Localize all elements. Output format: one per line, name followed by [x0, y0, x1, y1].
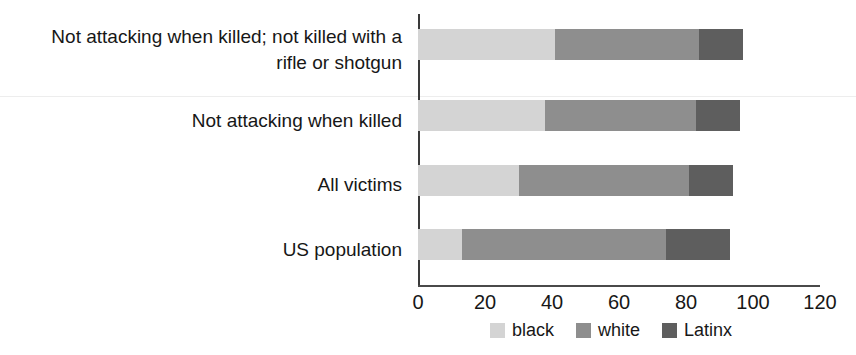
- bar-segment-latinx: [696, 100, 740, 131]
- x-axis-tick-label: 0: [412, 289, 423, 315]
- bar-row: [418, 229, 730, 260]
- x-axis-tick-labels: 020406080100120: [418, 289, 820, 317]
- x-axis-tick-label: 40: [541, 289, 563, 315]
- bar-row: [418, 165, 733, 196]
- plot-area: [418, 14, 820, 285]
- bar-segment-black: [418, 100, 545, 131]
- bar-row: [418, 29, 743, 60]
- bar-segment-white: [555, 29, 699, 60]
- chart-legend: blackwhiteLatinx: [490, 320, 732, 340]
- bar-segment-black: [418, 29, 555, 60]
- legend-label-black: black: [512, 320, 554, 340]
- x-axis-line: [418, 285, 820, 287]
- legend-swatch-white: [576, 323, 591, 338]
- x-axis-tick-label: 120: [803, 289, 836, 315]
- legend-item[interactable]: Latinx: [662, 320, 732, 340]
- y-axis-label-line-2: rifle or shotgun: [2, 50, 402, 76]
- bar-segment-black: [418, 229, 462, 260]
- x-axis-tick-label: 80: [675, 289, 697, 315]
- legend-item[interactable]: black: [490, 320, 554, 340]
- x-axis-tick-label: 20: [474, 289, 496, 315]
- y-axis-label-line-1: Not attacking when killed; not killed wi…: [51, 26, 402, 47]
- bar-segment-latinx: [666, 229, 730, 260]
- legend-label-white: white: [598, 320, 640, 340]
- x-axis-tick-label: 60: [608, 289, 630, 315]
- y-axis-label-all-victims: All victims: [2, 172, 402, 198]
- legend-swatch-latinx: [662, 323, 677, 338]
- legend-swatch-black: [490, 323, 505, 338]
- bar-segment-black: [418, 165, 519, 196]
- y-axis-label-not-attacking-no-rifle: Not attacking when killed; not killed wi…: [2, 24, 402, 76]
- bar-segment-white: [462, 229, 666, 260]
- stacked-bar-chart: Not attacking when killed; not killed wi…: [0, 0, 856, 355]
- bar-row: [418, 100, 740, 131]
- legend-label-latinx: Latinx: [684, 320, 732, 340]
- x-axis-tick-label: 100: [736, 289, 769, 315]
- bar-segment-latinx: [699, 29, 743, 60]
- y-axis-category-labels: Not attacking when killed; not killed wi…: [0, 0, 410, 300]
- y-axis-label-not-attacking-when-killed: Not attacking when killed: [2, 108, 402, 134]
- bar-segment-white: [545, 100, 696, 131]
- bar-segment-white: [519, 165, 690, 196]
- bar-segment-latinx: [689, 165, 733, 196]
- legend-item[interactable]: white: [576, 320, 640, 340]
- y-axis-label-us-population: US population: [2, 237, 402, 263]
